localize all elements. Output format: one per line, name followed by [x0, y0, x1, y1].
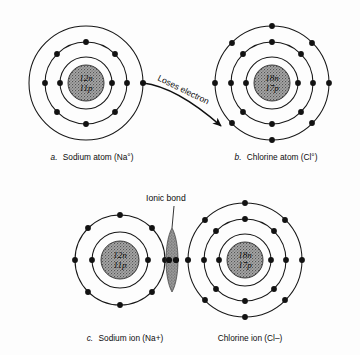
chlorine-ion-proton-count: 17p	[238, 260, 252, 270]
loses-electron-annotation: Loses electron	[143, 73, 221, 126]
ionic-bond-diagram: 12n 11p Loses electron	[0, 0, 360, 355]
loses-electron-label: Loses electron	[156, 73, 211, 107]
transferred-electron	[185, 257, 191, 263]
sodium-atom-group: 12n 11p	[29, 26, 146, 140]
diagram-page: 12n 11p Loses electron	[0, 0, 360, 355]
chlorine-atom-group: 18n 17p	[212, 23, 332, 143]
sodium-ion-caption: c. Sodium ion (Na+)	[87, 333, 164, 343]
bond-electron-right	[173, 257, 179, 263]
chlorine-ion-neutron-count: 18n	[238, 250, 252, 260]
sodium-ion-group: 12n 11p	[72, 212, 168, 308]
chlorine-atom-proton-count: 17p	[265, 83, 279, 93]
sodium-atom-neutron-count: 12n	[79, 73, 93, 83]
sodium-ion-proton-count: 11p	[114, 260, 127, 270]
sodium-ion-caption-text: Sodium ion (Na+)	[98, 333, 163, 343]
sodium-atom-caption-letter: a.	[51, 152, 58, 162]
sodium-atom-caption: a. Sodium atom (Na°)	[51, 152, 134, 162]
ionic-bond-leader-line	[172, 206, 174, 228]
ionic-bond-annotation: Ionic bond	[146, 193, 186, 228]
chlorine-atom-caption-text: Chlorine atom (Cl°)	[247, 152, 318, 162]
chlorine-ion-caption: Chlorine ion (Cl–)	[218, 333, 283, 343]
chlorine-ion-caption-text: Chlorine ion (Cl–)	[218, 333, 283, 343]
sodium-ion-neutron-count: 12n	[113, 250, 127, 260]
bond-electron-left	[166, 257, 172, 263]
sodium-ion-caption-letter: c.	[87, 333, 93, 343]
chlorine-atom-caption: b. Chlorine atom (Cl°)	[235, 152, 318, 162]
ionic-bond-label: Ionic bond	[146, 193, 186, 203]
ionic-bond-region	[166, 228, 179, 292]
chlorine-atom-neutron-count: 18n	[265, 73, 279, 83]
sodium-atom-proton-count: 11p	[80, 83, 93, 93]
chlorine-ion-group: 18n 17p	[185, 200, 305, 320]
sodium-atom-caption-text: Sodium atom (Na°)	[63, 152, 134, 162]
chlorine-atom-caption-letter: b.	[235, 152, 242, 162]
